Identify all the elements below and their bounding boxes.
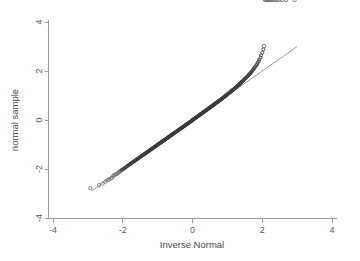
x-tick-label: 2 <box>260 225 265 235</box>
qq-plot-figure: -4-2024 -4-2024 Inverse Normal normal sa… <box>0 0 360 261</box>
x-tick-label: 4 <box>329 225 334 235</box>
x-tick-label: -4 <box>49 225 57 235</box>
x-tick-label: 0 <box>190 225 195 235</box>
y-tick-label: -2 <box>34 165 44 173</box>
y-axis-title: normal sample <box>9 89 20 151</box>
x-tick-label: -2 <box>119 225 127 235</box>
x-axis-title: Inverse Normal <box>160 239 224 250</box>
y-tick-label: 2 <box>34 68 44 73</box>
y-tick-label: 0 <box>34 117 44 122</box>
y-tick-label: -4 <box>34 214 44 222</box>
y-tick-label: 4 <box>34 19 44 24</box>
plot-canvas: -4-2024 -4-2024 Inverse Normal normal sa… <box>0 0 360 261</box>
